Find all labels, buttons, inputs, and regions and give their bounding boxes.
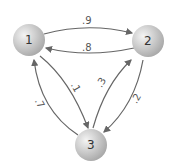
node-1: 1 (13, 24, 45, 56)
node-3: 3 (75, 129, 107, 161)
edge-label-2-1: .8 (82, 42, 92, 53)
svg-text:3: 3 (87, 138, 95, 152)
edge-label-1-2: .9 (82, 15, 92, 26)
edge-label-3-2: .3 (94, 75, 108, 89)
svg-text:1: 1 (25, 33, 33, 47)
edge-1-3 (40, 56, 88, 128)
edge-3-2 (93, 60, 131, 128)
edge-1-2 (44, 28, 132, 34)
edge-label-2-3: .2 (129, 91, 143, 105)
markov-chain-diagram: .9 .8 .1 .7 .3 .2 1 2 3 (0, 0, 175, 164)
svg-text:2: 2 (144, 34, 152, 48)
node-2: 2 (132, 25, 164, 57)
